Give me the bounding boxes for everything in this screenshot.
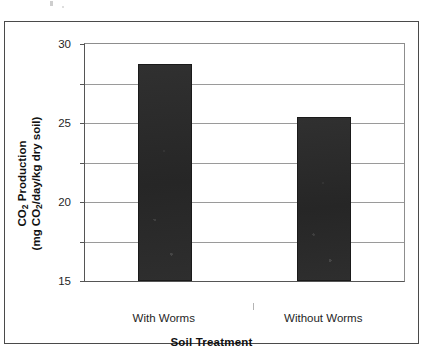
y-axis-tick: 30	[80, 44, 85, 45]
figure-frame: CO2 Production (mg CO2/day/kg dry soil) …	[4, 21, 419, 344]
scan-artifact-speck	[50, 1, 53, 6]
gridline	[85, 163, 404, 164]
scan-artifact-speck-secondary	[62, 6, 64, 8]
y-axis-title-line1-subscript: 2	[20, 204, 30, 209]
y-axis-tick-label: 30	[58, 39, 71, 51]
gridline	[85, 123, 404, 124]
y-axis-tick: 5	[80, 242, 85, 243]
y-axis-tick: 25	[80, 84, 85, 85]
y-axis-title: CO2 Production (mg CO2/day/kg dry soil)	[11, 64, 47, 303]
y-axis-title-line2-subscript: 2	[34, 204, 44, 209]
y-axis-title-line1-pre: CO	[16, 209, 28, 226]
category-divider-tick	[253, 303, 254, 310]
y-axis-tick: 0	[80, 281, 85, 282]
y-axis-title-line2: (mg CO2/day/kg dry soil)	[29, 117, 43, 251]
y-axis-title-line1: CO2 Production	[15, 141, 29, 227]
gridline	[85, 202, 404, 203]
y-axis-tick-label: 20	[58, 197, 71, 209]
y-axis-title-line1-post: Production	[16, 141, 28, 205]
y-axis-tick: 10	[80, 202, 85, 203]
plot-area: 051015202530	[84, 43, 405, 282]
x-axis-title: Soil Treatment	[5, 336, 418, 347]
gridline	[85, 84, 404, 85]
x-axis-tick-label: Without Worms	[263, 313, 383, 325]
gridline	[85, 242, 404, 243]
bar-with-worms	[138, 64, 192, 281]
y-axis-tick: 15	[80, 163, 85, 164]
bar-without-worms	[297, 117, 351, 281]
x-axis-tick-label: With Worms	[104, 313, 224, 325]
y-axis-tick: 20	[80, 123, 85, 124]
y-axis-title-line2-post: /day/kg dry soil)	[30, 117, 42, 205]
y-axis-tick-label: 15	[58, 276, 71, 288]
y-axis-tick-label: 25	[58, 118, 71, 130]
y-axis-title-line2-pre: (mg CO	[30, 209, 42, 251]
